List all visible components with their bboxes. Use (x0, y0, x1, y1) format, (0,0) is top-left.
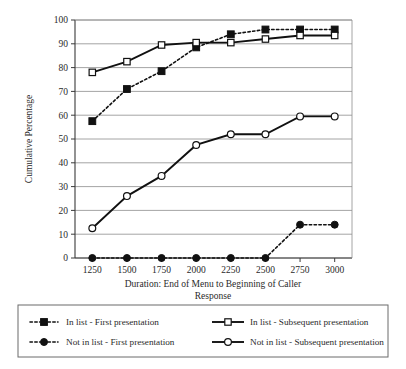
x-axis-title-line2: Response (195, 291, 231, 301)
datapoint-in-list-subsequent-presentation-2250 (228, 39, 234, 45)
datapoint-not-in-list-first-presentation-2000 (193, 255, 200, 262)
x-tick-label-2250: 2250 (221, 265, 240, 275)
legend-label-not-in-list-subsequent-presentation: Not in list - Subsequent presentation (250, 337, 384, 347)
datapoint-not-in-list-subsequent-presentation-2250 (227, 131, 234, 138)
legend-entry-in-list-first-presentation[interactable]: In list - First presentation (30, 317, 159, 327)
datapoint-in-list-first-presentation-1250 (89, 118, 96, 125)
y-axis-title: Cumulative Percentage (24, 95, 34, 183)
y-tick-label-100: 100 (54, 15, 69, 25)
datapoint-not-in-list-first-presentation-3000 (331, 221, 338, 228)
x-tick-label-3000: 3000 (325, 265, 344, 275)
datapoint-in-list-subsequent-presentation-3000 (331, 32, 337, 38)
datapoint-not-in-list-subsequent-presentation-1750 (158, 172, 165, 179)
x-tick-label-2500: 2500 (256, 265, 275, 275)
series-line-not-in-list-subsequent-presentation (92, 116, 334, 228)
datapoint-in-list-subsequent-presentation-1750 (158, 42, 164, 48)
datapoint-in-list-first-presentation-1500 (124, 86, 131, 93)
x-tick-label-2000: 2000 (187, 265, 206, 275)
y-tick-label-0: 0 (63, 253, 68, 263)
datapoint-not-in-list-subsequent-presentation-1500 (124, 193, 131, 200)
datapoint-in-list-first-presentation-1750 (158, 68, 165, 75)
datapoint-not-in-list-subsequent-presentation-2750 (297, 113, 304, 120)
datapoint-not-in-list-first-presentation-2250 (227, 255, 234, 262)
legend-marker (41, 339, 48, 346)
datapoint-in-list-subsequent-presentation-2000 (193, 39, 199, 45)
datapoint-in-list-first-presentation-2250 (227, 31, 234, 38)
datapoint-not-in-list-first-presentation-1250 (89, 255, 96, 262)
legend-entry-not-in-list-subsequent-presentation[interactable]: Not in list - Subsequent presentation (212, 337, 384, 347)
y-tick-label-70: 70 (59, 87, 69, 97)
y-tick-label-90: 90 (59, 39, 69, 49)
datapoint-in-list-subsequent-presentation-2750 (297, 32, 303, 38)
legend-entry-in-list-subsequent-presentation[interactable]: In list - Subsequent presentation (212, 317, 369, 327)
legend-marker (225, 319, 231, 325)
cumulative-percentage-line-chart: 0102030405060708090100125015001750200022… (0, 0, 406, 369)
datapoint-not-in-list-subsequent-presentation-3000 (331, 113, 338, 120)
datapoint-not-in-list-first-presentation-2750 (297, 221, 304, 228)
x-tick-label-1250: 1250 (83, 265, 102, 275)
x-tick-label-1500: 1500 (117, 265, 136, 275)
datapoint-in-list-first-presentation-2500 (262, 26, 269, 33)
x-axis-title-line1: Duration: End of Menu to Beginning of Ca… (125, 279, 302, 289)
legend-label-in-list-first-presentation: In list - First presentation (66, 317, 159, 327)
x-tick-label-1750: 1750 (152, 265, 171, 275)
datapoint-in-list-subsequent-presentation-2500 (262, 36, 268, 42)
y-tick-label-60: 60 (59, 111, 69, 121)
datapoint-in-list-subsequent-presentation-1500 (124, 58, 130, 64)
y-tick-label-50: 50 (59, 134, 69, 144)
legend-label-in-list-subsequent-presentation: In list - Subsequent presentation (250, 317, 369, 327)
legend-entry-not-in-list-first-presentation[interactable]: Not in list - First presentation (30, 337, 175, 347)
datapoint-not-in-list-subsequent-presentation-1250 (89, 225, 96, 232)
y-tick-label-30: 30 (59, 182, 69, 192)
datapoint-in-list-subsequent-presentation-1250 (89, 69, 95, 75)
legend-box (18, 305, 388, 357)
y-tick-label-80: 80 (59, 63, 69, 73)
datapoint-not-in-list-subsequent-presentation-2500 (262, 131, 269, 138)
legend-marker (225, 339, 232, 346)
datapoint-not-in-list-subsequent-presentation-2000 (193, 142, 200, 149)
datapoint-not-in-list-first-presentation-2500 (262, 255, 269, 262)
x-tick-label-2750: 2750 (291, 265, 310, 275)
series-line-not-in-list-first-presentation (92, 225, 334, 258)
datapoint-not-in-list-first-presentation-1750 (158, 255, 165, 262)
legend-marker (41, 319, 48, 326)
legend-label-not-in-list-first-presentation: Not in list - First presentation (66, 337, 175, 347)
chart-figure: 0102030405060708090100125015001750200022… (0, 0, 406, 369)
y-tick-label-10: 10 (59, 230, 69, 240)
datapoint-not-in-list-first-presentation-1500 (123, 255, 130, 262)
y-tick-label-40: 40 (59, 158, 69, 168)
y-tick-label-20: 20 (59, 206, 69, 216)
